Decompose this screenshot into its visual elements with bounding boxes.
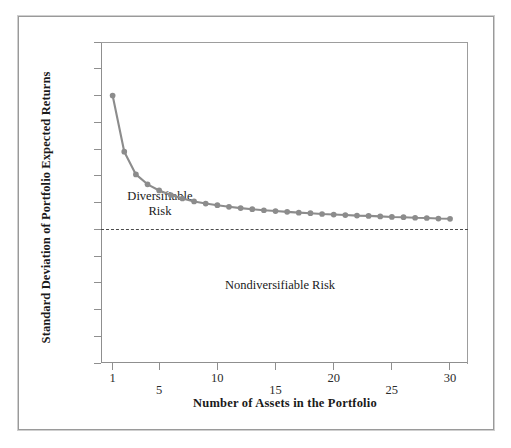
x-tick-label: 5 [133, 383, 185, 398]
y-tick-mark [94, 149, 101, 150]
x-tick-label: 25 [366, 383, 418, 398]
y-tick-mark [94, 229, 101, 230]
x-tick-mark [217, 363, 218, 370]
x-tick-label: 1 [87, 371, 139, 386]
x-tick-mark [275, 363, 276, 370]
x-tick-label: 15 [250, 383, 302, 398]
x-tick-label: 20 [308, 371, 360, 386]
y-tick-mark [94, 282, 101, 283]
y-tick-mark [94, 336, 101, 337]
annotation-diversifiable-line2: Risk [108, 204, 212, 219]
y-tick-mark [94, 256, 101, 257]
annotation-diversifiable-risk: Diversifiable Risk [108, 189, 212, 219]
annotation-diversifiable-line1: Diversifiable [108, 189, 212, 204]
plot-right-border [467, 42, 468, 364]
annotation-nondiversifiable-risk: Nondiversifiable Risk [180, 278, 380, 293]
x-tick-mark [159, 363, 160, 370]
nondiversifiable-threshold-line [101, 229, 468, 230]
y-tick-mark [94, 175, 101, 176]
x-tick-label: 10 [191, 371, 243, 386]
plot-top-border [101, 42, 468, 43]
x-tick-label: 30 [424, 371, 476, 386]
y-axis-title: Standard Deviation of Portfolio Expected… [39, 43, 54, 373]
figure-container: Standard Deviation of Portfolio Expected… [0, 0, 511, 448]
x-tick-mark [112, 363, 113, 370]
y-tick-mark [94, 68, 101, 69]
x-tick-mark [391, 363, 392, 370]
y-tick-mark [94, 42, 101, 43]
y-tick-mark [94, 202, 101, 203]
y-tick-mark [94, 309, 101, 310]
annotation-nondiversifiable-line1: Nondiversifiable Risk [180, 278, 380, 293]
x-axis-title: Number of Assets in the Portfolio [100, 396, 470, 411]
y-tick-mark [94, 122, 101, 123]
x-tick-mark [333, 363, 334, 370]
y-tick-mark [94, 95, 101, 96]
x-tick-mark [449, 363, 450, 370]
y-tick-mark [94, 363, 101, 364]
